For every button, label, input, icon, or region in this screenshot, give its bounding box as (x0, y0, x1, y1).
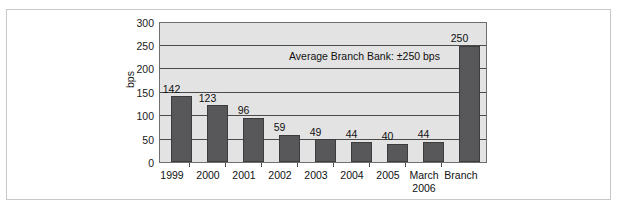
x-tick-4 (297, 163, 298, 167)
y-axis-tick-labels: 300 250 200 150 100 50 0 (126, 0, 154, 209)
bar-value-2001: 96 (226, 105, 261, 116)
bar-2000[interactable] (207, 105, 228, 162)
x-tick-label-1999: 1999 (152, 169, 192, 181)
x-tick-label-march: March (404, 169, 444, 181)
bar-value-1999: 142 (154, 84, 189, 95)
bar-value-2000: 123 (190, 93, 225, 104)
bar-2005[interactable] (387, 144, 408, 163)
y-tick-label-0: 0 (148, 158, 154, 168)
x-tick-label-2002: 2002 (260, 169, 300, 181)
gridline-250 (160, 45, 486, 46)
bar-2003[interactable] (315, 139, 336, 162)
x-tick-1 (189, 163, 190, 167)
bar-march-2006[interactable] (423, 142, 444, 162)
bar-value-branch: 250 (442, 33, 477, 44)
y-tick-label-300: 300 (136, 18, 154, 28)
x-tick-label-2005: 2005 (368, 169, 408, 181)
y-tick-label-150: 150 (136, 88, 154, 98)
x-tick-label-2000: 2000 (188, 169, 228, 181)
bar-value-2003: 49 (298, 127, 333, 138)
x-tick-label-2006: 2006 (404, 182, 444, 194)
y-tick-label-200: 200 (136, 64, 154, 74)
bar-2004[interactable] (351, 142, 372, 162)
bar-value-2002: 59 (262, 122, 297, 133)
x-tick-2 (225, 163, 226, 167)
x-tick-label-2001: 2001 (224, 169, 264, 181)
bar-2002[interactable] (279, 135, 300, 162)
bar-value-march-2006: 44 (406, 129, 441, 140)
x-tick-5 (333, 163, 334, 167)
y-tick-label-50: 50 (142, 135, 154, 145)
bar-value-2005: 40 (370, 131, 405, 142)
bar-branch[interactable] (459, 46, 480, 162)
chart-figure: bps 300 250 200 150 100 50 0 142 123 96 … (0, 0, 618, 209)
x-tick-label-branch: Branch (440, 169, 482, 181)
bar-2001[interactable] (243, 118, 264, 162)
x-tick-3 (261, 163, 262, 167)
x-tick-6 (369, 163, 370, 167)
bar-1999[interactable] (171, 96, 192, 162)
x-tick-label-2004: 2004 (332, 169, 372, 181)
cropped-title-remnant (0, 0, 618, 7)
y-tick-label-250: 250 (136, 41, 154, 51)
x-tick-7 (405, 163, 406, 167)
x-tick-8 (441, 163, 442, 167)
y-tick-label-100: 100 (136, 111, 154, 121)
x-tick-label-2003: 2003 (296, 169, 336, 181)
average-branch-bank-annotation: Average Branch Bank: ±250 bps (289, 50, 440, 62)
bar-value-2004: 44 (334, 129, 369, 140)
gridline-200 (160, 68, 486, 69)
